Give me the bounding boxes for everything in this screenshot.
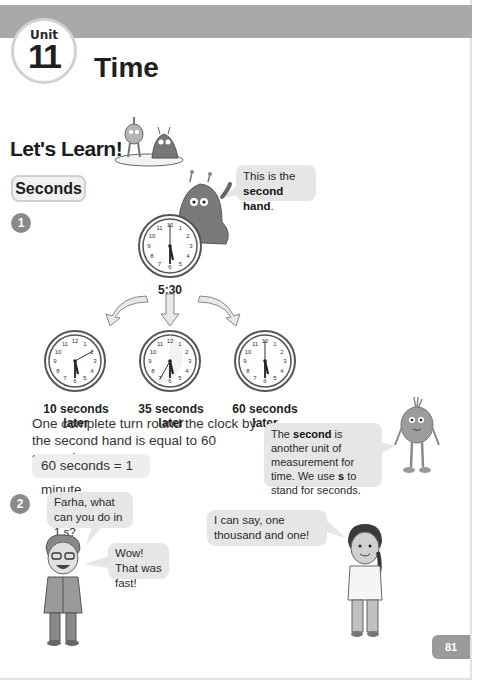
svg-text:10: 10 (150, 349, 157, 355)
speech-bubble-girl: I can say, one thousand and one! (207, 510, 327, 546)
unit-number: 11 (14, 37, 74, 76)
main-clock-5-30: 12123 4567 891011 (138, 214, 202, 278)
svg-text:11: 11 (62, 341, 69, 347)
clock-60-seconds: 12123 4567 891011 (234, 330, 296, 392)
step-number-1: 1 (11, 213, 31, 233)
mascots-illustration (112, 112, 187, 167)
svg-text:10: 10 (149, 233, 156, 239)
unit-title: Time (94, 52, 159, 84)
speech-bubble-boy-reply: Wow! That was fast! (108, 543, 169, 579)
svg-text:10: 10 (55, 349, 62, 355)
svg-text:11: 11 (252, 341, 259, 347)
arrow-right (196, 292, 246, 328)
fuzzy-mascot (392, 395, 442, 477)
clock-35-seconds: 12123 4567 891011 (139, 330, 201, 392)
boy-character (38, 533, 88, 648)
svg-text:11: 11 (157, 341, 164, 347)
equation-box: 60 seconds = 1 minute (32, 454, 150, 478)
textbook-page: Unit 11 Time Let's Learn! Seconds 1 This… (0, 0, 472, 680)
speech-bubble-second-hand: This is the second hand. (236, 165, 316, 201)
svg-text:10: 10 (245, 349, 252, 355)
arrow-left (100, 292, 150, 328)
svg-text:11: 11 (156, 225, 163, 231)
arrow-down (160, 294, 180, 328)
svg-text:12: 12 (72, 338, 79, 344)
section-tag-seconds: Seconds (11, 175, 86, 202)
page-number: 81 (432, 635, 470, 659)
lets-learn-heading: Let's Learn! (10, 137, 122, 161)
girl-character (342, 522, 388, 642)
unit-badge: Unit 11 (11, 18, 77, 84)
speech-bubble-boy-question: Farha, what can you do in 1 s? (47, 492, 133, 528)
clock-10-seconds: 12123 4567 891011 (44, 330, 106, 392)
speech-bubble-definition: The second is another unit of measuremen… (264, 423, 382, 487)
step-number-2: 2 (10, 494, 30, 514)
svg-text:12: 12 (167, 338, 174, 344)
